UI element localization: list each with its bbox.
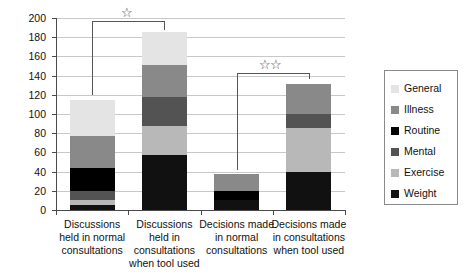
- y-tick-label: 80: [0, 128, 46, 138]
- bar-segment-weight: [142, 155, 187, 210]
- x-axis-label-line: in consultations: [267, 231, 351, 244]
- y-tick-label: 0: [0, 205, 46, 215]
- bar-segment-weight: [286, 172, 331, 210]
- x-tick-mark: [273, 210, 274, 215]
- bar-segment-general: [142, 32, 187, 65]
- legend-label: Illness: [404, 104, 434, 115]
- bar-segment-illness: [286, 84, 331, 114]
- bar-4: [286, 18, 331, 210]
- significance-bracket-discussions-stars: ☆: [121, 6, 132, 19]
- significance-bracket-decisions-tick-right: [309, 73, 310, 80]
- legend-swatch-exercise: [391, 169, 399, 177]
- bar-segment-illness: [142, 65, 187, 97]
- legend: GeneralIllnessRoutineMentalExerciseWeigh…: [384, 70, 458, 205]
- legend-item-general[interactable]: General: [391, 78, 457, 99]
- bar-segment-weight: [214, 200, 259, 210]
- bar-segment-routine: [214, 191, 259, 201]
- bar-segment-routine: [70, 168, 115, 191]
- stacked-bar-chart: 020406080100120140160180200 Discussionsh…: [0, 0, 465, 278]
- legend-swatch-illness: [391, 106, 399, 114]
- y-tick-label: 140: [0, 71, 46, 81]
- x-tick-mark: [201, 210, 202, 215]
- x-tick-mark: [56, 210, 57, 215]
- y-tick-label: 40: [0, 167, 46, 177]
- bar-segment-exercise: [142, 126, 187, 156]
- bar-segment-mental: [286, 114, 331, 128]
- bar-segment-mental: [142, 97, 187, 126]
- legend-label: Mental: [404, 146, 436, 157]
- bar-segment-exercise: [286, 128, 331, 171]
- bar-segment-weight: [70, 205, 115, 210]
- legend-item-mental[interactable]: Mental: [391, 141, 457, 162]
- x-axis-label-line: when tool used: [267, 244, 351, 257]
- bar-2: [142, 18, 187, 210]
- y-tick-label: 180: [0, 32, 46, 42]
- x-tick-mark: [345, 210, 346, 215]
- y-tick-label: 20: [0, 186, 46, 196]
- significance-bracket-discussions-tick-right: [164, 21, 165, 30]
- bar-segment-illness: [70, 136, 115, 168]
- legend-item-illness[interactable]: Illness: [391, 99, 457, 120]
- legend-swatch-general: [391, 85, 399, 93]
- y-tick-label: 200: [0, 13, 46, 23]
- legend-item-exercise[interactable]: Exercise: [391, 162, 457, 183]
- y-tick-label: 120: [0, 90, 46, 100]
- significance-bracket-decisions-line: [237, 73, 309, 74]
- y-tick-label: 60: [0, 147, 46, 157]
- legend-item-weight[interactable]: Weight: [391, 183, 457, 204]
- significance-bracket-discussions-tick-left: [92, 21, 93, 95]
- y-tick-label: 160: [0, 51, 46, 61]
- x-tick-mark: [128, 210, 129, 215]
- y-tick-label: 100: [0, 109, 46, 119]
- x-axis-label-4: Decisions madein consultationswhen tool …: [267, 218, 351, 257]
- significance-bracket-discussions-line: [92, 21, 164, 22]
- significance-bracket-decisions-stars: ☆☆: [259, 58, 281, 71]
- legend-swatch-weight: [391, 190, 399, 198]
- legend-label: Weight: [404, 188, 437, 199]
- legend-label: Exercise: [404, 167, 444, 178]
- x-axis-label-line: Decisions made: [267, 218, 351, 231]
- bar-segment-exercise: [70, 200, 115, 205]
- legend-swatch-routine: [391, 127, 399, 135]
- legend-label: Routine: [404, 125, 440, 136]
- bar-segment-illness: [214, 174, 259, 190]
- bar-segment-mental: [70, 191, 115, 201]
- plot-area: [56, 18, 345, 210]
- bar-segment-general: [70, 100, 115, 136]
- legend-label: General: [404, 83, 441, 94]
- legend-swatch-mental: [391, 148, 399, 156]
- significance-bracket-decisions-tick-left: [237, 73, 238, 170]
- legend-item-routine[interactable]: Routine: [391, 120, 457, 141]
- x-axis-label-line: when tool used: [122, 257, 206, 270]
